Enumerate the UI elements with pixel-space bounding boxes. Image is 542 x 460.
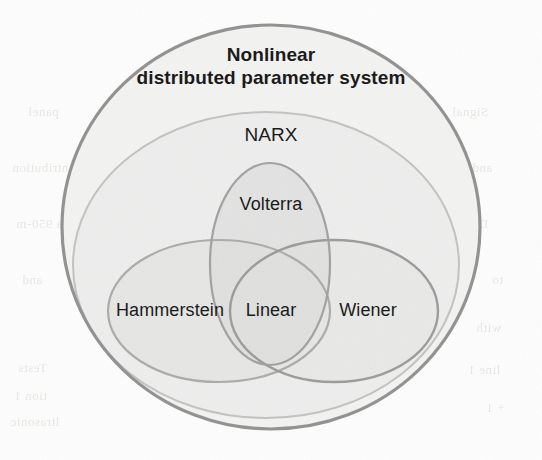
label-hammerstein: Hammerstein bbox=[105, 300, 235, 321]
label-volterra: Volterra bbox=[0, 194, 542, 215]
label-outer-set: Nonlinear distributed parameter system bbox=[0, 43, 542, 89]
figure-canvas: panelntributiona 950-mandTeststion 1ltra… bbox=[0, 0, 542, 460]
label-wiener: Wiener bbox=[318, 300, 418, 321]
label-outer-line1: Nonlinear bbox=[0, 43, 542, 66]
label-narx: NARX bbox=[0, 124, 542, 146]
label-linear: Linear bbox=[236, 300, 306, 321]
label-outer-line2: distributed parameter system bbox=[0, 66, 542, 89]
